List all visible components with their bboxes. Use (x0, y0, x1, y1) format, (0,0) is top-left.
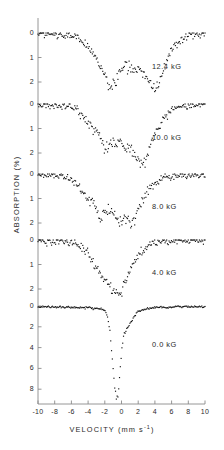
data-point (121, 296, 122, 297)
data-point (175, 175, 176, 176)
data-point (94, 268, 95, 269)
panel-field-label: 4.0 kG (152, 268, 177, 277)
data-point (68, 306, 69, 307)
data-point (102, 71, 103, 72)
data-point (138, 67, 139, 68)
data-point (81, 40, 82, 41)
data-point (137, 258, 138, 259)
data-point (117, 218, 118, 219)
data-point (109, 144, 110, 145)
data-point (38, 35, 39, 36)
data-point (143, 250, 144, 251)
data-point (70, 308, 71, 309)
data-point (142, 77, 143, 78)
data-point (134, 259, 135, 260)
data-point (77, 105, 78, 106)
data-point (141, 247, 142, 248)
data-point (87, 248, 88, 249)
data-point (115, 144, 116, 145)
data-point (93, 134, 94, 135)
data-point (61, 109, 62, 110)
data-point (108, 89, 109, 90)
data-point (121, 358, 122, 359)
data-point (118, 294, 119, 295)
y-tick-label: 0 (22, 302, 34, 309)
data-point (109, 330, 110, 331)
data-point (141, 206, 142, 207)
data-point (64, 103, 65, 104)
data-point (135, 156, 136, 157)
data-point (116, 399, 117, 400)
data-point (117, 73, 118, 74)
data-point (137, 72, 138, 73)
data-point (83, 248, 84, 249)
data-point (184, 106, 185, 107)
data-point (202, 240, 203, 241)
data-point (180, 43, 181, 44)
data-point (112, 89, 113, 90)
data-point (66, 176, 67, 177)
data-point (37, 34, 38, 35)
y-axis-title: ABSORPTION (%) (12, 147, 21, 243)
data-point (54, 174, 55, 175)
data-point (44, 37, 45, 38)
data-point (109, 213, 110, 214)
data-point (157, 181, 158, 182)
x-axis-title-superscript: -1 (144, 424, 151, 430)
data-point (123, 218, 124, 219)
data-point (129, 273, 130, 274)
data-point (121, 292, 122, 293)
data-point (45, 107, 46, 108)
data-point (111, 144, 112, 145)
data-point (70, 35, 71, 36)
data-point (129, 67, 130, 68)
data-point (189, 242, 190, 243)
data-point (146, 191, 147, 192)
data-point (116, 218, 117, 219)
data-point (106, 314, 107, 315)
data-point (132, 220, 133, 221)
panel-field-label: 8.0 kG (152, 202, 177, 211)
data-point (108, 204, 109, 205)
data-point (146, 156, 147, 157)
data-point (121, 140, 122, 141)
data-point (144, 197, 145, 198)
data-point (144, 71, 145, 72)
data-point (184, 36, 185, 37)
data-point (110, 282, 111, 283)
data-point (122, 343, 123, 344)
data-point (176, 243, 177, 244)
y-tick-label: 0 (22, 170, 34, 177)
data-point (157, 129, 158, 130)
data-point (104, 74, 105, 75)
data-point (161, 75, 162, 76)
data-point (187, 241, 188, 242)
data-point (146, 249, 147, 250)
data-point (119, 141, 120, 142)
data-point (106, 279, 107, 280)
data-point (197, 34, 198, 35)
data-point (109, 284, 110, 285)
data-point (90, 122, 91, 123)
data-point (89, 50, 90, 51)
x-tick-label: 0 (116, 408, 128, 415)
data-point (165, 242, 166, 243)
data-point (97, 266, 98, 267)
data-point (93, 200, 94, 201)
data-point (65, 240, 66, 241)
data-point (82, 115, 83, 116)
data-point (204, 32, 205, 33)
data-point (122, 70, 123, 71)
data-point (73, 109, 74, 110)
data-point (54, 35, 55, 36)
data-point (136, 213, 137, 214)
data-point (176, 239, 177, 240)
data-point (95, 265, 96, 266)
data-point (69, 245, 70, 246)
data-point (107, 151, 108, 152)
data-point (131, 64, 132, 65)
data-point (204, 306, 205, 307)
data-point (145, 167, 146, 168)
data-point (105, 149, 106, 150)
data-point (204, 239, 205, 240)
